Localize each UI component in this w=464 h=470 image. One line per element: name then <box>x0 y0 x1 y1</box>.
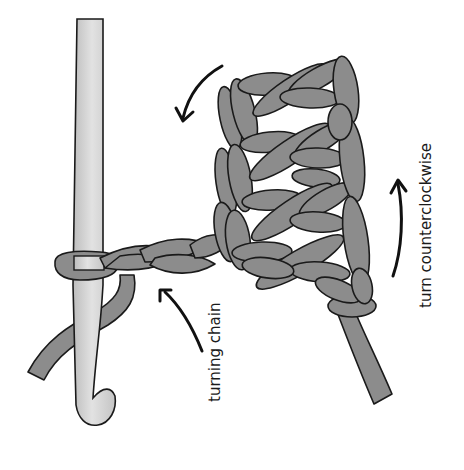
turning-chain-pointer <box>160 290 202 351</box>
stitch-fabric <box>210 52 374 297</box>
turn-direction-label: turn counterclockwise <box>417 143 435 308</box>
turning-chain <box>100 235 232 273</box>
turn-arrow-right <box>391 180 406 276</box>
crochet-diagram: turning chain turn counterclockwise <box>0 0 464 470</box>
turn-arrow-top <box>176 66 222 121</box>
slip-knot <box>312 266 392 404</box>
crochet-hook <box>73 19 115 425</box>
turning-chain-label: turning chain <box>206 303 224 402</box>
